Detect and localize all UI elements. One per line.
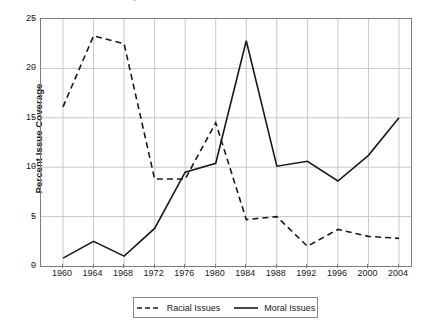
x-tick-mark <box>93 264 94 268</box>
chart-title-cropped: Issue Coverage <box>52 0 312 1</box>
x-tick-mark <box>62 264 63 268</box>
y-tick-mark <box>32 216 36 217</box>
x-tick-mark <box>276 264 277 268</box>
x-tick-mark <box>215 264 216 268</box>
x-tick-mark <box>154 264 155 268</box>
y-tick-label: 15 <box>2 112 36 122</box>
data-series-layer <box>63 36 399 258</box>
legend-entry: Moral Issues <box>233 303 315 313</box>
x-tick-mark <box>398 264 399 268</box>
legend-swatch-dashed <box>136 304 162 312</box>
legend-label: Racial Issues <box>167 303 221 313</box>
series-line-racial-issues <box>63 36 399 246</box>
plot-area <box>40 18 412 267</box>
plot-canvas <box>41 19 411 266</box>
x-tick-mark <box>337 264 338 268</box>
legend-swatch-solid <box>233 304 259 312</box>
y-tick-label: 5 <box>2 211 36 221</box>
x-tick-mark <box>184 264 185 268</box>
x-tick-label: 2004 <box>378 268 418 278</box>
y-tick-mark <box>32 117 36 118</box>
x-axis-tick-labels: 1960196419681972197619801984198819921996… <box>40 268 410 284</box>
y-tick-label: 0 <box>2 260 36 270</box>
y-tick-mark <box>32 166 36 167</box>
y-tick-mark <box>32 67 36 68</box>
x-tick-mark <box>245 264 246 268</box>
x-tick-mark <box>367 264 368 268</box>
y-axis-tick-labels: 0510152025 <box>0 18 36 265</box>
x-tick-mark <box>306 264 307 268</box>
y-tick-mark <box>32 265 36 266</box>
y-tick-label: 25 <box>2 13 36 23</box>
y-tick-label: 20 <box>2 62 36 72</box>
chart-legend: Racial IssuesMoral Issues <box>133 297 318 318</box>
x-tick-mark <box>123 264 124 268</box>
legend-label: Moral Issues <box>264 303 315 313</box>
series-line-moral-issues <box>63 41 399 258</box>
y-tick-label: 10 <box>2 161 36 171</box>
gridlines <box>41 19 411 266</box>
chart-figure: Issue Coverage Percent Issue Coverage 05… <box>0 0 421 324</box>
y-tick-mark <box>32 18 36 19</box>
legend-entry: Racial Issues <box>136 303 221 313</box>
